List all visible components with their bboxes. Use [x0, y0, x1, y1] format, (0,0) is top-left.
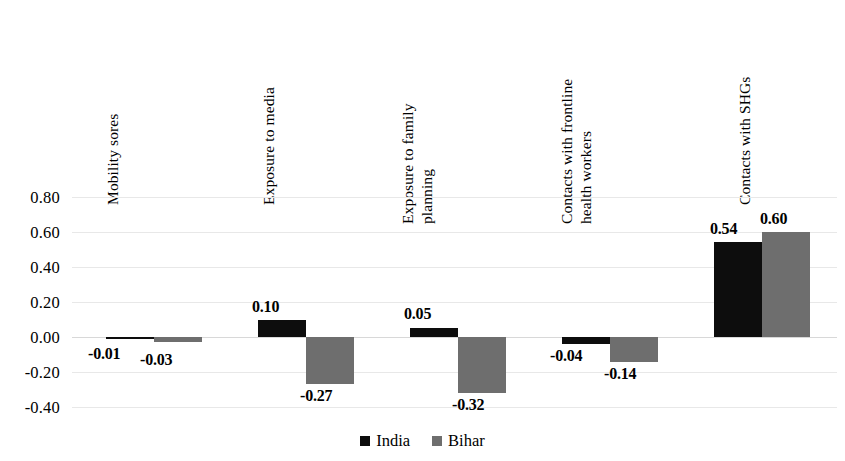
bar-bihar-mobility-sores — [154, 337, 202, 342]
y-axis-tick-1: 0.60 — [0, 225, 60, 241]
value-label-bihar-0: -0.03 — [140, 351, 172, 368]
bar-india-contacts-with-shgs — [714, 242, 762, 337]
y-axis-tick-4: 0.00 — [0, 330, 60, 346]
bar-india-exposure-to-family-planning — [410, 328, 458, 337]
y-axis-tick-6: -0.40 — [0, 400, 60, 416]
bar-bihar-exposure-to-family-planning — [458, 337, 506, 393]
bar-chart: Mobility sores Exposure to media Exposur… — [0, 0, 845, 461]
legend-item-india[interactable]: India — [360, 431, 410, 451]
value-label-india-4: 0.54 — [710, 220, 737, 237]
value-label-india-0: -0.01 — [88, 345, 120, 362]
bar-india-contacts-frontline-health-workers — [562, 337, 610, 344]
category-label-1-line-1: Exposure to media — [260, 87, 277, 205]
value-label-india-3: -0.04 — [550, 347, 582, 364]
category-label-0: Mobility sores — [103, 114, 122, 205]
legend-swatch-bihar-icon — [432, 436, 442, 446]
y-axis-tick-0: 0.80 — [0, 190, 60, 206]
bar-india-exposure-to-media — [258, 320, 306, 337]
y-axis-tick-2: 0.40 — [0, 260, 60, 276]
gridline-0-80 — [72, 197, 837, 198]
value-label-india-1: 0.10 — [252, 298, 279, 315]
legend-item-bihar[interactable]: Bihar — [432, 431, 485, 451]
y-axis-tick-5: -0.20 — [0, 365, 60, 381]
y-axis-tick-3: 0.20 — [0, 295, 60, 311]
legend-label-india: India — [376, 431, 410, 451]
chart-legend: India Bihar — [0, 431, 845, 451]
value-label-bihar-1: -0.27 — [300, 387, 332, 404]
legend-swatch-india-icon — [360, 436, 370, 446]
bar-bihar-contacts-with-shgs — [762, 232, 810, 337]
category-label-1: Exposure to media — [259, 87, 278, 205]
value-label-bihar-3: -0.14 — [604, 365, 636, 382]
value-label-india-2: 0.05 — [404, 305, 431, 322]
plot-area: -0.01 -0.03 0.10 -0.27 0.05 -0.32 -0.04 … — [72, 197, 837, 407]
category-label-4: Contacts with SHGs — [735, 77, 754, 205]
value-label-bihar-4: 0.60 — [760, 210, 787, 227]
category-label-4-line-1: Contacts with SHGs — [736, 77, 753, 205]
category-label-0-line-1: Mobility sores — [104, 114, 121, 205]
bar-india-mobility-sores — [106, 337, 154, 339]
bar-bihar-exposure-to-media — [306, 337, 354, 384]
value-label-bihar-2: -0.32 — [452, 396, 484, 413]
bar-bihar-contacts-frontline-health-workers — [610, 337, 658, 362]
legend-label-bihar: Bihar — [448, 431, 485, 451]
gridline-neg-0-20 — [72, 372, 837, 373]
